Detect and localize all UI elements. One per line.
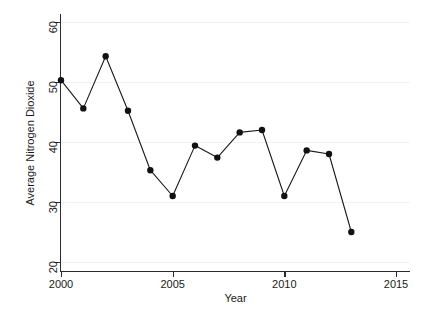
data-series — [0, 0, 427, 328]
chart-figure: 2030405060 2000200520102015 Average Nitr… — [0, 0, 427, 328]
data-point — [102, 53, 108, 59]
data-point — [348, 229, 354, 235]
series-line — [61, 56, 351, 232]
data-point — [80, 105, 86, 111]
data-point — [259, 127, 265, 133]
data-point — [214, 154, 220, 160]
data-point — [303, 147, 309, 153]
data-point — [236, 129, 242, 135]
data-point — [326, 151, 332, 157]
data-point — [281, 193, 287, 199]
data-point — [58, 77, 64, 83]
data-point — [169, 193, 175, 199]
series-markers — [58, 53, 355, 235]
data-point — [192, 142, 198, 148]
data-point — [147, 167, 153, 173]
data-point — [125, 108, 131, 114]
